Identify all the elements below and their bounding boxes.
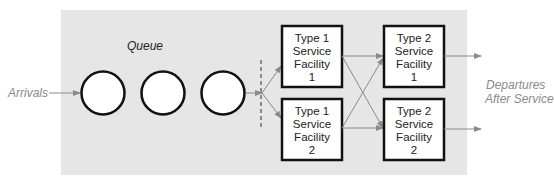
queue-system-diagram: Queue Arrivals Type 1 Service Facility 1… [0, 0, 554, 184]
type2-facility-2-line2: Service [395, 118, 433, 130]
type2-facility-1-line1: Type 2 [397, 32, 432, 44]
queue-slot-3 [202, 72, 245, 115]
type1-facility-2-line4: 2 [309, 144, 315, 156]
type2-facility-2-line3: Facility [396, 131, 432, 143]
type1-facility-1-line1: Type 1 [295, 32, 330, 44]
type2-facility-2-line1: Type 2 [397, 105, 432, 117]
type2-facility-2-line4: 2 [411, 144, 417, 156]
type1-facility-2-line3: Facility [294, 131, 330, 143]
type1-facility-2: Type 1 Service Facility 2 [282, 99, 342, 160]
type2-facility-1-line2: Service [395, 45, 433, 57]
type1-facility-1-line3: Facility [294, 58, 330, 70]
type2-facility-1-line4: 1 [411, 71, 417, 83]
departures-label-line1: Departures [486, 78, 545, 92]
type2-facility-2: Type 2 Service Facility 2 [384, 99, 444, 160]
type1-facility-1-line2: Service [293, 45, 331, 57]
queue-slot-1 [82, 72, 125, 115]
queue-label: Queue [127, 39, 163, 53]
type1-facility-1: Type 1 Service Facility 1 [282, 26, 342, 87]
type1-facility-2-line2: Service [293, 118, 331, 130]
arrivals-label: Arrivals [7, 86, 48, 100]
departures-label-line2: After Service [484, 92, 554, 106]
type1-facility-2-line1: Type 1 [295, 105, 330, 117]
type2-facility-1-line3: Facility [396, 58, 432, 70]
type1-facility-1-line4: 1 [309, 71, 315, 83]
type2-facility-1: Type 2 Service Facility 1 [384, 26, 444, 87]
queue-slot-2 [142, 72, 185, 115]
